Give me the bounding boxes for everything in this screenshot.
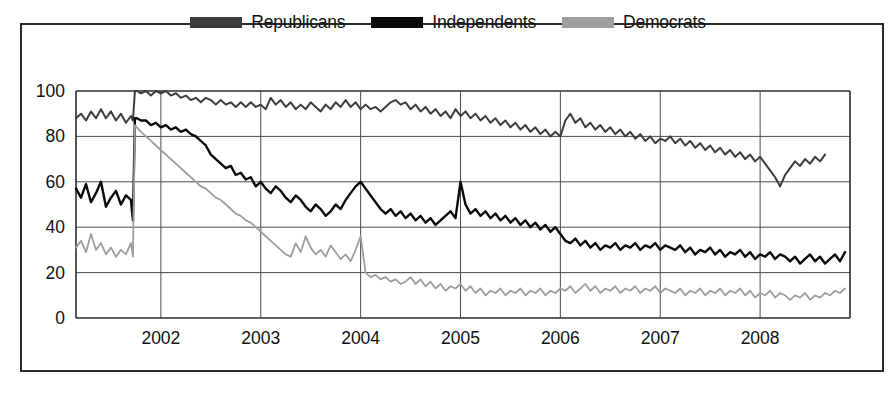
x-tick-label: 2002 xyxy=(141,328,180,348)
x-axis-tick-labels: 2002200320042005200620072008 xyxy=(141,328,779,348)
chart-figure: Republicans Independents Democrats 02040… xyxy=(0,0,896,396)
x-tick-label: 2004 xyxy=(341,328,380,348)
x-tick-label: 2008 xyxy=(741,328,780,348)
chart-canvas: 020406080100 200220032004200520062007200… xyxy=(0,0,896,396)
x-tick-label: 2006 xyxy=(541,328,580,348)
series-line-republicans xyxy=(76,91,825,186)
x-tick-label: 2005 xyxy=(441,328,480,348)
y-tick-label: 80 xyxy=(46,126,66,146)
y-tick-label: 20 xyxy=(46,263,66,283)
y-tick-label: 40 xyxy=(46,217,66,237)
y-tick-label: 0 xyxy=(55,308,65,328)
chart-plot-area: 020406080100 200220032004200520062007200… xyxy=(0,0,896,396)
y-axis-tick-labels: 020406080100 xyxy=(36,81,65,328)
x-tick-label: 2003 xyxy=(241,328,280,348)
x-tick-label: 2007 xyxy=(641,328,680,348)
y-tick-label: 60 xyxy=(46,172,66,192)
grid-layer xyxy=(76,91,850,318)
y-tick-label: 100 xyxy=(36,81,65,101)
